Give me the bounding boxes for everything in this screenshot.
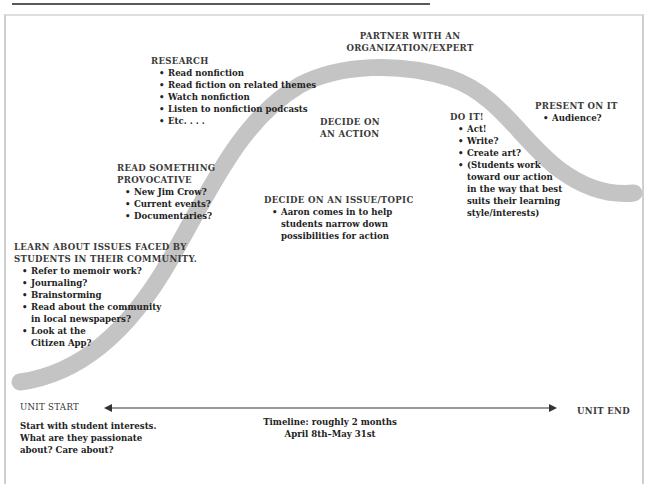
list-item-continued: students narrow down — [272, 218, 414, 230]
start-note-line: What are they passionate — [20, 432, 156, 444]
stage-decide-issue: DECIDE ON AN ISSUE/TOPIC Aaron comes in … — [264, 194, 414, 242]
unit-start-note: Start with student interests. What are t… — [20, 420, 156, 456]
list-item: Etc. . . . — [159, 115, 316, 127]
duration-line-1: Timeline: roughly 2 months — [240, 416, 420, 428]
stage-provocative-heading-1: READ SOMETHING — [117, 162, 216, 174]
list-item: Create art? — [458, 147, 562, 159]
stage-provocative: READ SOMETHING PROVOCATIVE New Jim Crow?… — [117, 162, 216, 222]
list-item: New Jim Crow? — [125, 186, 216, 198]
stage-research: RESEARCH Read nonfiction Read fiction on… — [151, 55, 316, 127]
duration-line-2: April 8th–May 31st — [240, 428, 420, 440]
list-item: Watch nonfiction — [159, 91, 316, 103]
list-item: Current events? — [125, 198, 216, 210]
stage-provocative-heading-2: PROVOCATIVE — [117, 174, 216, 186]
list-item: Read about the community — [22, 301, 197, 313]
stage-decide-action-heading-2: AN ACTION — [320, 128, 380, 140]
stage-decide-action: DECIDE ON AN ACTION — [320, 116, 380, 140]
stage-decide-issue-heading: DECIDE ON AN ISSUE/TOPIC — [264, 194, 414, 206]
list-item: Act! — [458, 123, 562, 135]
list-item: Brainstorming — [22, 289, 197, 301]
list-item: Refer to memoir work? — [22, 265, 197, 277]
stage-partner: PARTNER WITH AN ORGANIZATION/EXPERT — [345, 30, 475, 54]
unit-end-label: UNIT END — [577, 405, 630, 417]
list-item-continued: possibilities for action — [272, 230, 414, 242]
list-item-continued: in local newspapers? — [22, 313, 197, 325]
list-item: Read fiction on related themes — [159, 79, 316, 91]
list-item-continued: style/interests) — [458, 207, 562, 219]
list-item: Aaron comes in to help — [272, 206, 414, 218]
stage-learn-heading-1: LEARN ABOUT ISSUES FACED BY — [14, 241, 197, 253]
timeline-duration: Timeline: roughly 2 months April 8th–May… — [240, 416, 420, 440]
stage-decide-action-heading-1: DECIDE ON — [320, 116, 380, 128]
list-item: Listen to nonfiction podcasts — [159, 103, 316, 115]
list-item: Audience? — [543, 112, 618, 124]
list-item-continued: in the way that best — [458, 183, 562, 195]
start-note-line: about? Care about? — [20, 444, 156, 456]
list-item: Look at the — [22, 325, 197, 337]
list-item: Documentaries? — [125, 210, 216, 222]
stage-research-heading: RESEARCH — [151, 55, 316, 67]
stage-present-heading: PRESENT ON IT — [535, 100, 618, 112]
arrow-right-icon — [549, 404, 557, 412]
unit-end-text: UNIT END — [577, 405, 630, 417]
unit-start-label: UNIT START — [20, 401, 79, 413]
stage-learn-heading-2: STUDENTS IN THEIR COMMUNITY. — [14, 253, 197, 265]
stage-present: PRESENT ON IT Audience? — [535, 100, 618, 124]
list-item: Read nonfiction — [159, 67, 316, 79]
stage-partner-heading-2: ORGANIZATION/EXPERT — [345, 42, 475, 54]
list-item: Write? — [458, 135, 562, 147]
stage-partner-heading-1: PARTNER WITH AN — [345, 30, 475, 42]
list-item: Journaling? — [22, 277, 197, 289]
list-item-continued: Citizen App? — [22, 337, 197, 349]
timeline-arrow — [104, 404, 557, 412]
arrow-left-icon — [104, 404, 112, 412]
stage-learn: LEARN ABOUT ISSUES FACED BY STUDENTS IN … — [14, 241, 197, 349]
list-item-continued: toward our action — [458, 171, 562, 183]
unit-start-text: UNIT START — [20, 401, 79, 413]
list-item-continued: suits their learning — [458, 195, 562, 207]
start-note-line: Start with student interests. — [20, 420, 156, 432]
stage-do-it: DO IT! Act! Write? Create art? (Students… — [450, 111, 562, 219]
list-item: (Students work — [458, 159, 562, 171]
